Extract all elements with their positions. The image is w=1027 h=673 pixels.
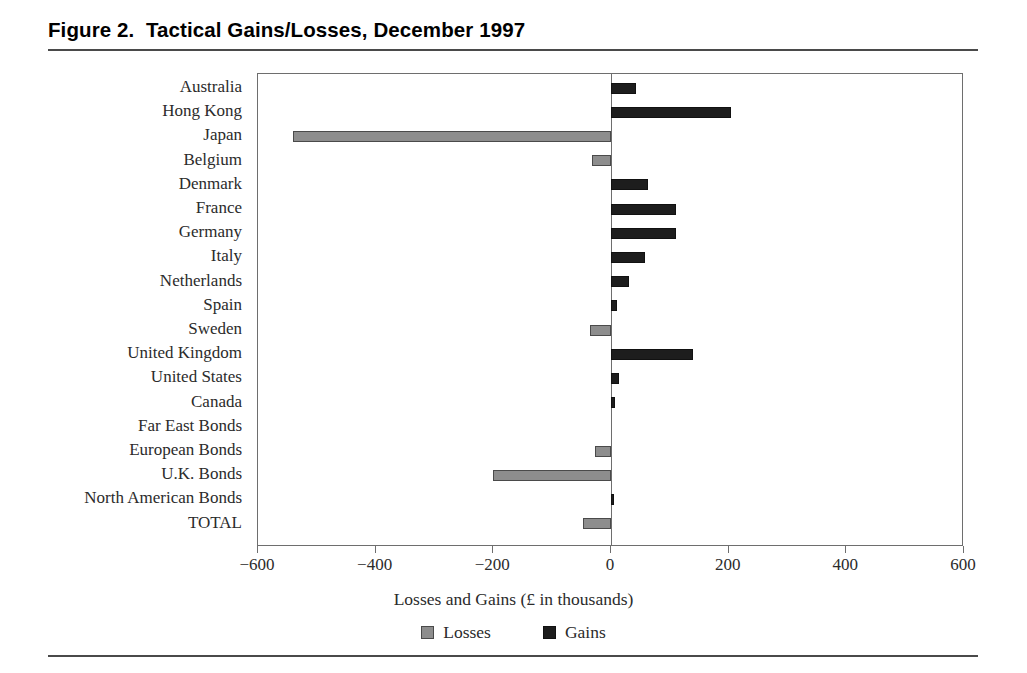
bar-total	[583, 518, 611, 529]
y-axis-label: Italy	[0, 247, 250, 264]
bar-united-states	[611, 373, 619, 384]
y-axis-label: Australia	[0, 78, 250, 95]
x-tick-mark	[492, 546, 493, 553]
bar-denmark	[611, 179, 648, 190]
y-axis-label: Spain	[0, 296, 250, 313]
x-axis: −600−400−2000200400600	[257, 546, 963, 586]
x-tick-label: −200	[475, 556, 510, 574]
bars-layer	[258, 74, 962, 545]
legend-label-losses: Losses	[443, 622, 491, 643]
y-axis-label: North American Bonds	[0, 489, 250, 506]
x-tick-label: 400	[833, 556, 859, 574]
bar-north-american-bonds	[611, 494, 614, 505]
x-tick-label: 200	[715, 556, 741, 574]
y-axis-label: Far East Bonds	[0, 417, 250, 434]
bar-australia	[611, 83, 636, 94]
title-divider	[48, 49, 978, 51]
x-axis-title: Losses and Gains (£ in thousands)	[0, 589, 1027, 610]
legend-item-gains: Gains	[543, 622, 606, 643]
figure-title: Figure 2. Tactical Gains/Losses, Decembe…	[48, 18, 525, 42]
legend-label-gains: Gains	[565, 622, 606, 643]
bar-italy	[611, 252, 645, 263]
bar-united-kingdom	[611, 349, 693, 360]
x-tick-mark	[257, 546, 258, 553]
x-tick-mark	[610, 546, 611, 553]
y-axis-label: TOTAL	[0, 514, 250, 531]
x-tick-mark	[728, 546, 729, 553]
y-axis-label: United States	[0, 368, 250, 385]
y-axis-label: Japan	[0, 126, 250, 143]
bar-european-bonds	[595, 446, 611, 457]
bar-france	[611, 204, 676, 215]
x-tick-label: 600	[950, 556, 976, 574]
bar-japan	[293, 131, 611, 142]
bottom-divider	[48, 655, 978, 657]
legend-item-losses: Losses	[421, 622, 491, 643]
y-axis-label: Germany	[0, 223, 250, 240]
bar-spain	[611, 300, 617, 311]
y-axis-label: Sweden	[0, 320, 250, 337]
y-axis-label: Netherlands	[0, 272, 250, 289]
bar-netherlands	[611, 276, 629, 287]
x-tick-label: −600	[239, 556, 274, 574]
y-axis-label: United Kingdom	[0, 344, 250, 361]
x-tick-label: 0	[606, 556, 615, 574]
bar-sweden	[590, 325, 611, 336]
bar-canada	[611, 397, 615, 408]
losses-swatch-icon	[421, 626, 434, 639]
plot-area	[257, 73, 963, 546]
figure-container: Figure 2. Tactical Gains/Losses, Decembe…	[0, 0, 1027, 673]
x-tick-mark	[845, 546, 846, 553]
y-axis-label: Canada	[0, 393, 250, 410]
x-tick-label: −400	[357, 556, 392, 574]
y-axis-label: European Bonds	[0, 441, 250, 458]
y-axis-label: Hong Kong	[0, 102, 250, 119]
y-axis-label: Denmark	[0, 175, 250, 192]
x-tick-mark	[963, 546, 964, 553]
y-axis-label: Belgium	[0, 151, 250, 168]
y-axis-label: U.K. Bonds	[0, 465, 250, 482]
bar-u-k-bonds	[493, 470, 611, 481]
y-axis-label: France	[0, 199, 250, 216]
x-tick-mark	[375, 546, 376, 553]
bar-hong-kong	[611, 107, 731, 118]
chart-legend: Losses Gains	[0, 622, 1027, 643]
gains-swatch-icon	[543, 626, 556, 639]
bar-belgium	[592, 155, 611, 166]
bar-germany	[611, 228, 676, 239]
